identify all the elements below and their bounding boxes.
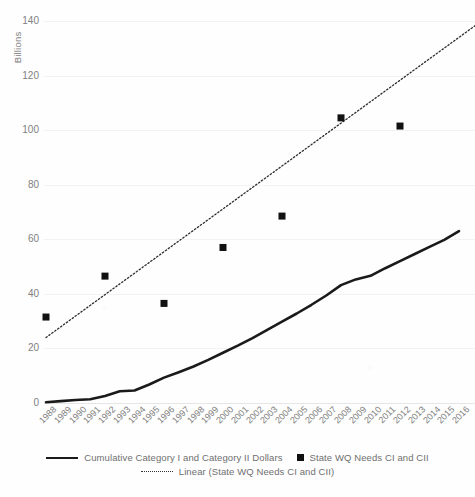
scatter-marker-2012 <box>397 123 404 130</box>
y-tick-label-100: 100 <box>22 125 39 135</box>
chart-legend: Cumulative Category I and Category II Do… <box>0 452 475 477</box>
plot-area: 020406080100120140 <box>44 21 475 403</box>
y-tick-label-120: 120 <box>22 71 39 81</box>
y-tick-label-140: 140 <box>22 16 39 26</box>
legend-label-linear-trend: Linear (State WQ Needs CI and CII) <box>179 466 334 477</box>
legend-label-state-wq-needs: State WQ Needs CI and CII <box>310 452 429 463</box>
trendline-state-wq-needs <box>46 0 475 338</box>
scatter-marker-1996 <box>161 300 168 307</box>
scatter-marker-1992 <box>102 273 109 280</box>
chart-container: Billions 020406080100120140 198819891990… <box>0 0 475 497</box>
x-axis-tick-labels: 1988198919901991199219931994199519961997… <box>44 405 475 451</box>
legend-entry-state-wq-needs: State WQ Needs CI and CII <box>297 452 429 463</box>
y-tick-label-80: 80 <box>28 180 39 190</box>
legend-row-primary: Cumulative Category I and Category II Do… <box>46 452 428 463</box>
y-tick-label-20: 20 <box>28 343 39 353</box>
legend-entry-cumulative-dollars: Cumulative Category I and Category II Do… <box>46 452 282 463</box>
gridline-0 <box>44 403 475 404</box>
y-tick-label-40: 40 <box>28 289 39 299</box>
legend-row-secondary: Linear (State WQ Needs CI and CII) <box>141 466 334 477</box>
legend-entry-linear-trend: Linear (State WQ Needs CI and CII) <box>141 466 334 477</box>
y-tick-label-60: 60 <box>28 234 39 244</box>
scatter-markers-state-wq-needs <box>43 114 404 320</box>
series-line-cumulative-dollars <box>46 231 459 402</box>
scatter-marker-2008 <box>338 114 345 121</box>
scatter-marker-1988 <box>43 314 50 321</box>
square-marker-key-icon <box>297 454 304 461</box>
legend-label-cumulative-dollars: Cumulative Category I and Category II Do… <box>84 452 282 463</box>
dotted-line-key-icon <box>141 471 173 472</box>
series-layer <box>44 21 475 403</box>
y-tick-label-0: 0 <box>33 398 39 408</box>
scatter-marker-2004 <box>279 213 286 220</box>
y-axis-title: Billions <box>12 13 23 83</box>
line-key-icon <box>46 457 78 459</box>
scatter-marker-2000 <box>220 244 227 251</box>
